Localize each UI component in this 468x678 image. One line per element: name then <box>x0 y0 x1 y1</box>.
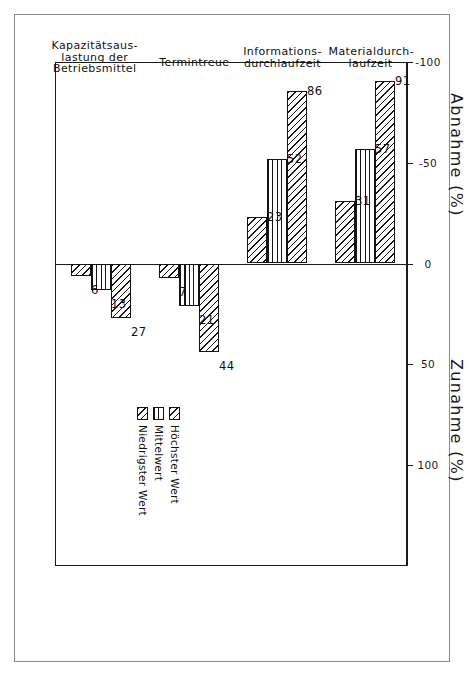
axis-tick-0 <box>406 264 413 265</box>
legend-swatch-hatch-icon <box>170 407 181 420</box>
legend-label-niedrigster-wert: Niedrigster Wert <box>137 425 149 516</box>
rotated-chart-stage: Abnahme (%) Zunahme (%) -100 -50 0 50 10… <box>42 29 432 649</box>
bar-label-termintreue-mittelwert: 21 <box>199 313 215 327</box>
axis-tick-label--100: -100 <box>415 56 440 68</box>
category-line: Informations- <box>236 46 330 58</box>
legend-item-niedrigster-wert: Niedrigster Wert <box>136 407 150 557</box>
axis-title-zunahme: Zunahme (%) <box>447 359 466 483</box>
bar-label-materialdurchlaufzeit-mittelwert: 57 <box>375 142 391 156</box>
bar-label-materialdurchlaufzeit-niedrigster: 31 <box>355 194 371 208</box>
bar-materialdurchlaufzeit-hoechster <box>375 81 395 263</box>
category-label-informationsdurchlaufzeit: Informations- durchlaufzeit <box>236 46 330 69</box>
bar-label-termintreue-niedrigster: 7 <box>179 285 187 299</box>
legend-swatch-lines-icon <box>154 407 165 420</box>
category-line: durchlaufzeit <box>236 57 330 69</box>
legend: Höchster Wert Mittelwert Niedrigster Wer… <box>134 407 182 557</box>
category-label-termintreue: Termintreue <box>159 57 229 69</box>
bar-label-kapazitaetsauslastung-mittelwert: 13 <box>111 297 127 311</box>
bar-informationsdurchlaufzeit-hoechster <box>287 91 307 263</box>
bar-informationsdurchlaufzeit-niedrigster <box>247 217 267 263</box>
legend-label-mittelwert: Mittelwert <box>153 425 165 481</box>
bar-label-informationsdurchlaufzeit-mittelwert: 52 <box>287 152 303 166</box>
legend-label-hoechster-wert: Höchster Wert <box>169 425 181 504</box>
axis-tick--50 <box>406 163 413 164</box>
bar-materialdurchlaufzeit-niedrigster <box>335 201 355 263</box>
axis-tick-label-100: 100 <box>417 459 438 471</box>
category-line: Kapazitätsaus- <box>41 40 149 52</box>
bar-termintreue-hoechster <box>199 264 219 352</box>
axis-tick-label--50: -50 <box>419 157 437 169</box>
category-line: Termintreue <box>159 57 229 69</box>
legend-item-hoechster-wert: Höchster Wert <box>168 407 182 557</box>
bar-termintreue-niedrigster <box>159 264 179 278</box>
value-axis-line <box>406 62 408 566</box>
plot-frame <box>55 62 407 566</box>
axis-tick-100 <box>406 465 413 466</box>
axis-tick-50 <box>406 364 413 365</box>
category-label-kapazitaetsauslastung: Kapazitätsaus- lastung der Betriebsmitte… <box>41 40 149 75</box>
bar-kapazitaetsauslastung-niedrigster <box>71 264 91 276</box>
axis-tick-label-0: 0 <box>424 258 431 270</box>
axis-tick-label-50: 50 <box>421 358 435 370</box>
category-label-materialdurchlaufzeit: Materialdurch- laufzeit <box>329 46 413 69</box>
axis-title-abnahme: Abnahme (%) <box>447 93 466 217</box>
bar-label-informationsdurchlaufzeit-hoechster: 86 <box>307 84 323 98</box>
category-line: Materialdurch- <box>329 46 413 58</box>
bar-label-kapazitaetsauslastung-niedrigster: 6 <box>91 283 99 297</box>
bar-label-kapazitaetsauslastung-hoechster: 27 <box>131 325 147 339</box>
bar-label-materialdurchlaufzeit-hoechster: 91 <box>395 74 411 88</box>
legend-item-mittelwert: Mittelwert <box>152 407 166 557</box>
bar-label-informationsdurchlaufzeit-niedrigster: 23 <box>267 210 283 224</box>
category-line: laufzeit <box>329 57 413 69</box>
bar-label-termintreue-hoechster: 44 <box>219 359 235 373</box>
category-line: Betriebsmittel <box>41 63 149 75</box>
legend-swatch-hatch2-icon <box>138 407 149 420</box>
figure-border: Abnahme (%) Zunahme (%) -100 -50 0 50 10… <box>14 14 450 662</box>
